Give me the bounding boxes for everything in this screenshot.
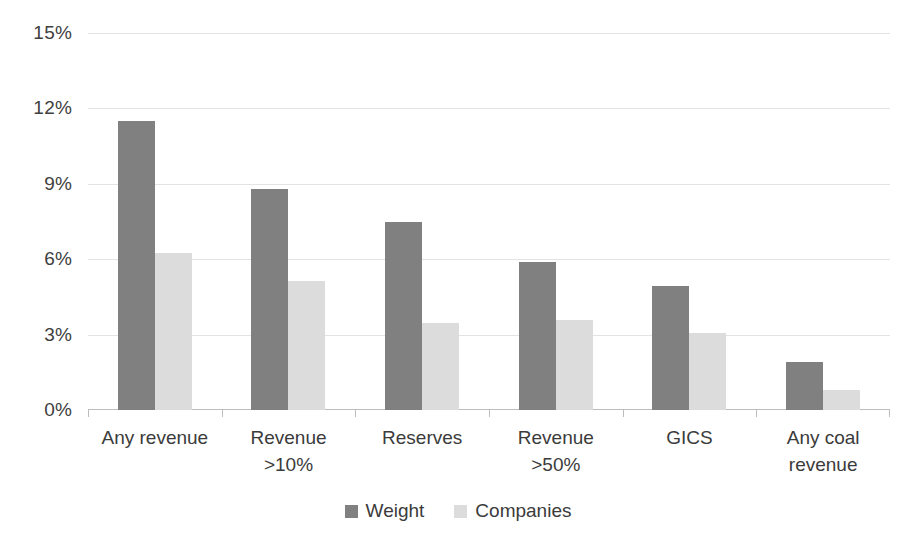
legend-item-companies[interactable]: Companies: [454, 500, 571, 522]
bar-companies: [556, 320, 593, 410]
x-axis-tick: [222, 410, 223, 417]
weight-swatch-icon: [345, 505, 358, 518]
x-axis-tick: [756, 410, 757, 417]
bar-weight: [652, 286, 689, 410]
x-axis-category-label: Revenue >10%: [222, 424, 356, 478]
bar-group: [88, 33, 222, 410]
x-axis-category-label: Any revenue: [88, 424, 222, 451]
bar-companies: [288, 281, 325, 410]
y-axis-tick-label: 6%: [10, 248, 72, 270]
y-axis: 15%12%9%6%3%0%: [10, 0, 72, 556]
bar-group: [355, 33, 489, 410]
bar-companies: [689, 333, 726, 410]
chart-legend: WeightCompanies: [0, 500, 916, 522]
y-axis-tick-label: 3%: [10, 324, 72, 346]
x-axis-tick: [88, 410, 89, 417]
legend-item-weight[interactable]: Weight: [345, 500, 425, 522]
bar-weight: [385, 222, 422, 411]
bar-weight: [118, 121, 155, 410]
bar-weight: [519, 262, 556, 410]
bar-group: [222, 33, 356, 410]
legend-label: Weight: [366, 500, 425, 522]
x-axis-category-label: Reserves: [355, 424, 489, 451]
bar-group: [489, 33, 623, 410]
bar-group: [756, 33, 890, 410]
plot-area: [88, 33, 890, 410]
x-axis-category-label: Revenue >50%: [489, 424, 623, 478]
x-axis-tick: [355, 410, 356, 417]
bar-group: [623, 33, 757, 410]
x-axis-category-labels: Any revenueRevenue >10%ReservesRevenue >…: [88, 424, 890, 488]
legend-label: Companies: [475, 500, 571, 522]
y-axis-tick-label: 9%: [10, 173, 72, 195]
x-axis-tick: [623, 410, 624, 417]
x-axis-tick: [889, 410, 890, 417]
y-axis-tick-label: 0%: [10, 399, 72, 421]
y-axis-tick-label: 12%: [10, 97, 72, 119]
bar-companies: [422, 323, 459, 410]
bar-weight: [251, 189, 288, 410]
x-axis-category-label: Any coal revenue: [756, 424, 890, 478]
bar-companies: [823, 390, 860, 410]
companies-swatch-icon: [454, 505, 467, 518]
bar-weight: [786, 362, 823, 410]
x-axis-category-label: GICS: [623, 424, 757, 451]
bar-companies: [155, 253, 192, 410]
bar-chart: 15%12%9%6%3%0% Any revenueRevenue >10%Re…: [0, 0, 916, 556]
y-axis-tick-label: 15%: [10, 22, 72, 44]
x-axis-tick: [489, 410, 490, 417]
